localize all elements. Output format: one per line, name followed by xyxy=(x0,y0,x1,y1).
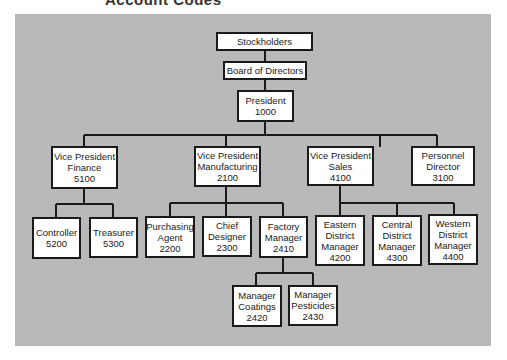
node-label: Agent xyxy=(158,232,183,243)
node-label: Controller xyxy=(36,227,77,238)
node-code: 2410 xyxy=(273,243,294,254)
node-label: Personnel xyxy=(422,150,465,161)
node-label: District xyxy=(438,229,467,240)
node-label: Coatings xyxy=(238,301,276,312)
node-treasurer: Treasurer 5300 xyxy=(89,217,138,258)
node-label: Manager xyxy=(265,232,303,243)
node-label: Manager xyxy=(378,241,416,252)
node-code: 2430 xyxy=(302,311,323,322)
node-personnel-director: Personnel Director 3100 xyxy=(411,146,475,186)
node-label: District xyxy=(382,230,411,241)
node-factory-manager: Factory Manager 2410 xyxy=(259,216,308,258)
node-label: Director xyxy=(426,161,459,172)
node-label: Sales xyxy=(329,161,353,172)
node-label: Designer xyxy=(208,231,246,242)
node-manager-coatings: Manager Coatings 2420 xyxy=(232,285,282,327)
node-eastern-district-manager: Eastern District Manager 4200 xyxy=(315,215,365,266)
node-code: 2300 xyxy=(216,242,237,253)
node-vp-sales: Vice President Sales 4100 xyxy=(307,146,374,186)
node-code: 4300 xyxy=(386,252,407,263)
node-label: Eastern xyxy=(324,219,357,230)
node-label: Manager xyxy=(434,240,472,251)
node-code: 1000 xyxy=(255,106,276,117)
node-controller: Controller 5200 xyxy=(32,217,81,259)
node-label: Purchasing xyxy=(146,221,194,232)
node-label: Western xyxy=(435,218,470,229)
node-code: 4200 xyxy=(329,252,350,263)
node-label: Vice President xyxy=(197,150,258,161)
node-label: Factory xyxy=(268,221,300,232)
node-label: District xyxy=(325,230,354,241)
node-label: Pesticides xyxy=(291,300,334,311)
node-manager-pesticides: Manager Pesticides 2430 xyxy=(288,285,338,326)
node-purchasing-agent: Purchasing Agent 2200 xyxy=(145,216,195,258)
node-label: Manager xyxy=(321,241,359,252)
node-label: Manufacturing xyxy=(197,161,257,172)
node-code: 2420 xyxy=(246,312,267,323)
node-chief-designer: Chief Designer 2300 xyxy=(202,216,252,257)
node-label: Stockholders xyxy=(237,36,292,47)
node-code: 5300 xyxy=(103,238,124,249)
node-central-district-manager: Central District Manager 4300 xyxy=(372,215,422,266)
node-code: 4400 xyxy=(442,251,463,262)
node-vp-manufacturing: Vice President Manufacturing 2100 xyxy=(194,146,261,187)
node-label: Treasurer xyxy=(93,227,134,238)
node-label: Vice President xyxy=(54,151,115,162)
node-label: President xyxy=(245,95,285,106)
node-code: 2100 xyxy=(217,172,238,183)
node-label: Central xyxy=(382,219,413,230)
node-code: 5100 xyxy=(74,173,95,184)
node-label: Manager xyxy=(238,290,276,301)
node-president: President 1000 xyxy=(237,90,294,122)
node-code: 5200 xyxy=(46,238,67,249)
node-code: 2200 xyxy=(159,243,180,254)
node-stockholders: Stockholders xyxy=(216,32,313,51)
node-label: Finance xyxy=(68,162,102,173)
node-board-of-directors: Board of Directors xyxy=(223,61,307,80)
node-code: 3100 xyxy=(432,172,453,183)
node-label: Vice President xyxy=(310,150,371,161)
node-label: Board of Directors xyxy=(227,65,304,76)
node-code: 4100 xyxy=(330,172,351,183)
node-label: Manager xyxy=(294,289,332,300)
node-vp-finance: Vice President Finance 5100 xyxy=(51,146,118,189)
node-label: Chief xyxy=(216,220,238,231)
node-western-district-manager: Western District Manager 4400 xyxy=(428,214,478,265)
